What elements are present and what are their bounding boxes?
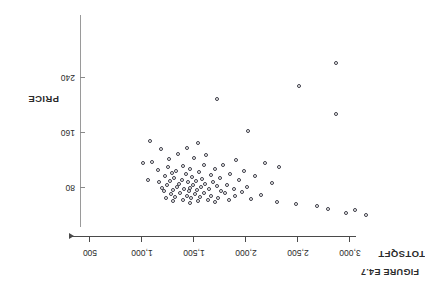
scatter-point <box>165 183 169 187</box>
scatter-point <box>353 208 357 212</box>
scatter-point <box>196 199 200 203</box>
scatter-plot-area <box>0 0 437 285</box>
scatter-point <box>182 187 186 191</box>
scatter-point <box>197 170 201 174</box>
scatter-point <box>246 129 250 133</box>
scatter-point <box>334 112 338 116</box>
scatter-point <box>294 202 298 206</box>
scatter-point <box>344 211 348 215</box>
scatter-point <box>270 181 274 185</box>
scatter-point <box>234 159 238 163</box>
scatter-point <box>174 169 178 173</box>
scatter-point <box>187 189 191 193</box>
scatter-point <box>228 172 232 176</box>
scatter-point <box>164 196 168 200</box>
scatter-point <box>159 148 163 152</box>
scatter-point <box>237 178 241 182</box>
scatter-point <box>213 167 217 171</box>
scatter-point <box>216 196 220 200</box>
scatter-point <box>175 185 179 189</box>
scatter-point <box>277 165 281 169</box>
scatter-point <box>207 187 211 191</box>
scatter-point <box>253 174 257 178</box>
scatter-point <box>202 163 206 167</box>
scatter-point <box>215 97 219 101</box>
scatter-point <box>196 141 200 145</box>
scatter-point <box>168 179 172 183</box>
scatter-point <box>215 184 219 188</box>
scatter-point <box>167 157 171 161</box>
scatter-point <box>184 172 188 176</box>
scatter-point <box>240 190 244 194</box>
scatter-point <box>181 198 185 202</box>
scatter-point <box>364 214 368 218</box>
scatter-point <box>194 179 198 183</box>
scatter-point <box>206 198 210 202</box>
scatter-point <box>225 183 229 187</box>
scatter-point <box>156 168 160 172</box>
scatter-point <box>275 200 279 204</box>
scatter-point <box>199 185 203 189</box>
scatter-point <box>193 192 197 196</box>
scatter-point <box>209 173 213 177</box>
scatter-point <box>227 198 231 202</box>
scatter-point <box>213 200 217 204</box>
scatter-point <box>315 204 319 208</box>
scatter-point <box>263 161 267 165</box>
scatter-point <box>202 191 206 195</box>
scatter-point <box>189 196 193 200</box>
scatter-point <box>233 194 237 198</box>
scatter-point <box>150 160 154 164</box>
scatter-point <box>188 167 192 171</box>
scatter-point <box>326 207 330 211</box>
scatter-point <box>204 153 208 157</box>
scatter-point <box>259 193 263 197</box>
scatter-point <box>190 175 194 179</box>
scatter-point <box>200 177 204 181</box>
scatter-point <box>162 189 166 193</box>
scatter-point <box>141 161 145 165</box>
scatter-point <box>223 192 227 196</box>
scatter-point <box>170 171 174 175</box>
scatter-point <box>163 174 167 178</box>
scatter-point <box>218 176 222 180</box>
scatter-point <box>211 180 215 184</box>
scatter-point <box>334 61 338 65</box>
scatter-point <box>176 152 180 156</box>
scatter-point <box>192 156 196 160</box>
scatter-point <box>185 146 189 150</box>
scatter-point <box>166 165 170 169</box>
scatter-point <box>221 163 225 167</box>
scatter-point <box>209 194 213 198</box>
scatter-point <box>181 164 185 168</box>
scatter-point <box>186 181 190 185</box>
scatter-point <box>172 176 176 180</box>
scatter-point <box>249 197 253 201</box>
scatter-point <box>180 178 184 182</box>
scatter-point <box>148 139 152 143</box>
scatter-point <box>245 185 249 189</box>
scatter-point <box>242 170 246 174</box>
scatter-point <box>146 178 150 182</box>
scatter-point <box>178 191 182 195</box>
scatter-point <box>157 181 161 185</box>
scatter-point <box>171 199 175 203</box>
figure-container: FIGURE E4.7 500 1,000 1,500 2,000 2,500 … <box>0 0 437 285</box>
scatter-point <box>297 84 301 88</box>
scatter-point <box>203 182 207 186</box>
scatter-point <box>188 201 192 205</box>
scatter-point <box>232 187 236 191</box>
